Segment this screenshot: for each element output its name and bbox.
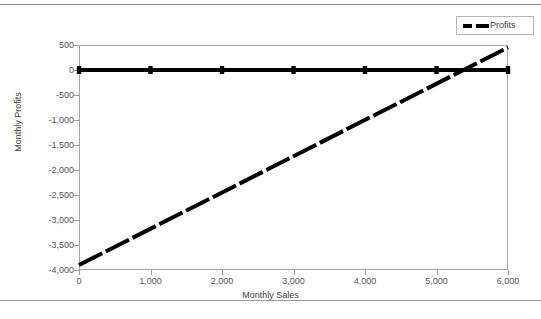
y-tick-label: -3,500 (28, 240, 74, 250)
x-tick-mark (294, 270, 295, 275)
y-tick-label: -500 (28, 90, 74, 100)
series-marker (77, 66, 81, 74)
legend-swatch-profits (463, 24, 489, 28)
x-tick-label: 5,000 (407, 276, 467, 286)
x-tick-mark (365, 270, 366, 275)
chart-legend: Profits (456, 16, 534, 35)
y-tick-label: -2,500 (28, 190, 74, 200)
legend-label-profits: Profits (490, 21, 516, 30)
y-tick-label: -3,000 (28, 215, 74, 225)
page-rule-bottom (0, 300, 541, 301)
series-marker (363, 66, 367, 74)
y-tick-label: -4,000 (28, 265, 74, 275)
y-tick-label: -1,000 (28, 115, 74, 125)
page-rule-top (0, 4, 541, 5)
series-marker (148, 66, 152, 74)
x-tick-mark (508, 270, 509, 275)
x-tick-label: 4,000 (335, 276, 395, 286)
series-marker (506, 66, 510, 74)
y-tick-label: 500 (28, 40, 74, 50)
x-tick-label: 2,000 (192, 276, 252, 286)
x-tick-label: 6,000 (478, 276, 538, 286)
chart-page: Profits 5000-500-1,000-1,500-2,000-2,500… (0, 0, 541, 319)
y-tick-label: 0 (28, 65, 74, 75)
cropped-header-text (150, 0, 410, 4)
series-marker (291, 66, 295, 74)
x-tick-mark (151, 270, 152, 275)
y-tick-label: -2,000 (28, 165, 74, 175)
x-tick-mark (437, 270, 438, 275)
y-tick-label: -1,500 (28, 140, 74, 150)
series-line-profits (79, 48, 508, 266)
x-axis-title: Monthly Sales (0, 290, 541, 300)
series-marker (220, 66, 224, 74)
x-tick-mark (222, 270, 223, 275)
x-tick-label: 0 (49, 276, 109, 286)
x-tick-mark (79, 270, 80, 275)
y-axis-title: Monthly Profits (13, 82, 23, 162)
x-tick-label: 1,000 (121, 276, 181, 286)
chart-data-layer (79, 45, 508, 270)
series-marker (434, 66, 438, 74)
x-tick-label: 3,000 (264, 276, 324, 286)
